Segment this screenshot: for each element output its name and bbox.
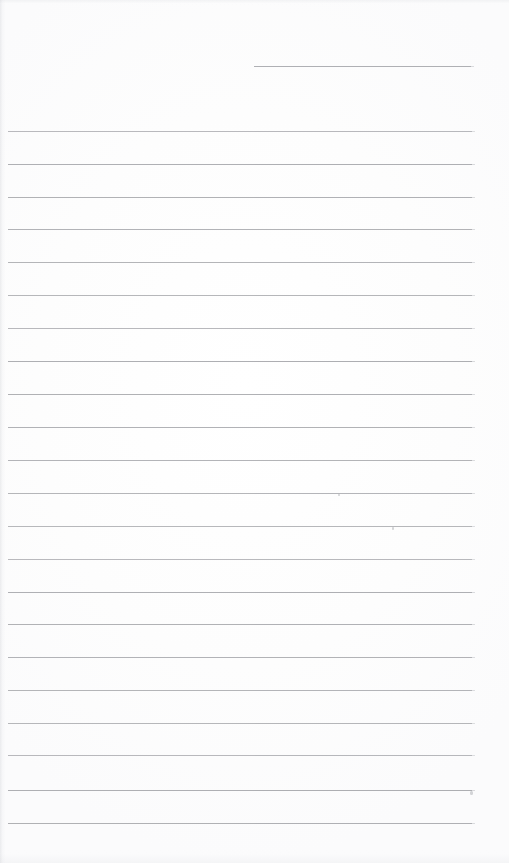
scan-edge-bottom-shading bbox=[0, 849, 509, 863]
ruled-line bbox=[8, 328, 472, 329]
ruled-line bbox=[8, 790, 472, 791]
ruled-line bbox=[8, 427, 472, 428]
ruled-line bbox=[8, 197, 472, 198]
ruled-line bbox=[8, 624, 472, 625]
speckle-c bbox=[470, 791, 473, 795]
speckle-a bbox=[338, 494, 340, 496]
ruled-line bbox=[8, 723, 472, 724]
ruled-line bbox=[8, 690, 472, 691]
scan-edge-top-shading bbox=[0, 0, 509, 5]
ruled-line bbox=[8, 164, 472, 165]
ruled-line bbox=[8, 295, 472, 296]
ruled-line bbox=[8, 526, 472, 527]
ruled-line bbox=[8, 755, 472, 756]
ruled-line bbox=[8, 262, 472, 263]
ruled-line bbox=[8, 559, 472, 560]
ruled-line bbox=[8, 592, 472, 593]
scan-edge-left-shading bbox=[0, 0, 7, 863]
date-rule bbox=[254, 66, 471, 67]
ruled-line bbox=[8, 394, 472, 395]
ruled-line bbox=[8, 131, 472, 132]
ruled-line bbox=[8, 229, 472, 230]
speckle-b bbox=[392, 527, 394, 530]
ruled-line bbox=[8, 823, 472, 824]
ruled-line bbox=[8, 657, 472, 658]
scanned-page bbox=[0, 0, 509, 863]
ruled-line bbox=[8, 361, 472, 362]
ruled-line bbox=[8, 460, 472, 461]
ruled-line bbox=[8, 493, 472, 494]
